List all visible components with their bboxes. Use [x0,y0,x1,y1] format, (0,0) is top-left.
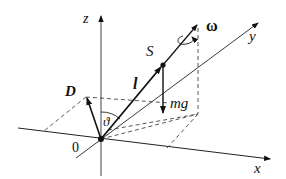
x-axis [18,128,270,159]
origin-point [98,136,104,142]
x-axis-label: x [254,161,261,176]
y-axis-label: y [249,29,256,44]
top-diagram [0,0,286,179]
angular-momentum-vector [87,98,101,139]
origin-label: 0 [72,141,79,155]
weight-label: mg [170,96,188,111]
length-vector [101,67,161,139]
angle-label: ϑ [103,115,109,128]
length-label: l [133,76,137,92]
rotation-arrow-icon [178,36,193,44]
angular-momentum-label: D [65,84,76,99]
omega-axis [163,25,197,65]
omega-label: ω [206,18,218,34]
center-of-mass-label: S [146,44,154,59]
z-axis-label: z [83,12,88,26]
